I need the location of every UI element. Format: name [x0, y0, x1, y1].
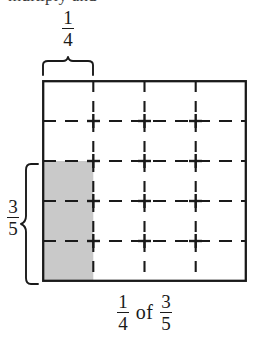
cropped-text: multiply and — [8, 0, 97, 6]
left-brace — [20, 162, 40, 286]
grid — [42, 80, 247, 282]
top-brace-icon — [40, 56, 96, 76]
shaded-region — [43, 161, 93, 281]
caption: 1 4 of 3 5 — [42, 292, 247, 334]
vertical-dashed-lines — [93, 81, 195, 281]
cropped-text-sliver: multiply and — [0, 0, 253, 7]
grid-svg — [42, 80, 247, 282]
caption-fraction-three-fifths: 3 5 — [160, 292, 172, 334]
denominator: 4 — [62, 30, 74, 49]
numerator: 1 — [117, 292, 129, 312]
top-fraction-label: 1 4 — [42, 8, 94, 50]
fraction-one-fourth: 1 4 — [62, 8, 74, 50]
denominator: 5 — [7, 219, 19, 238]
caption-fraction-one-fourth: 1 4 — [117, 292, 129, 334]
fraction-area-model-figure: multiply and 1 4 3 5 — [0, 0, 253, 347]
fraction-three-fifths: 3 5 — [7, 197, 19, 239]
numerator: 3 — [160, 292, 172, 312]
numerator: 1 — [62, 8, 74, 28]
numerator: 3 — [7, 197, 19, 217]
denominator: 5 — [160, 314, 172, 333]
caption-connector: of — [136, 301, 153, 324]
left-brace-icon — [20, 162, 40, 286]
top-brace — [40, 56, 96, 76]
denominator: 4 — [117, 314, 129, 333]
